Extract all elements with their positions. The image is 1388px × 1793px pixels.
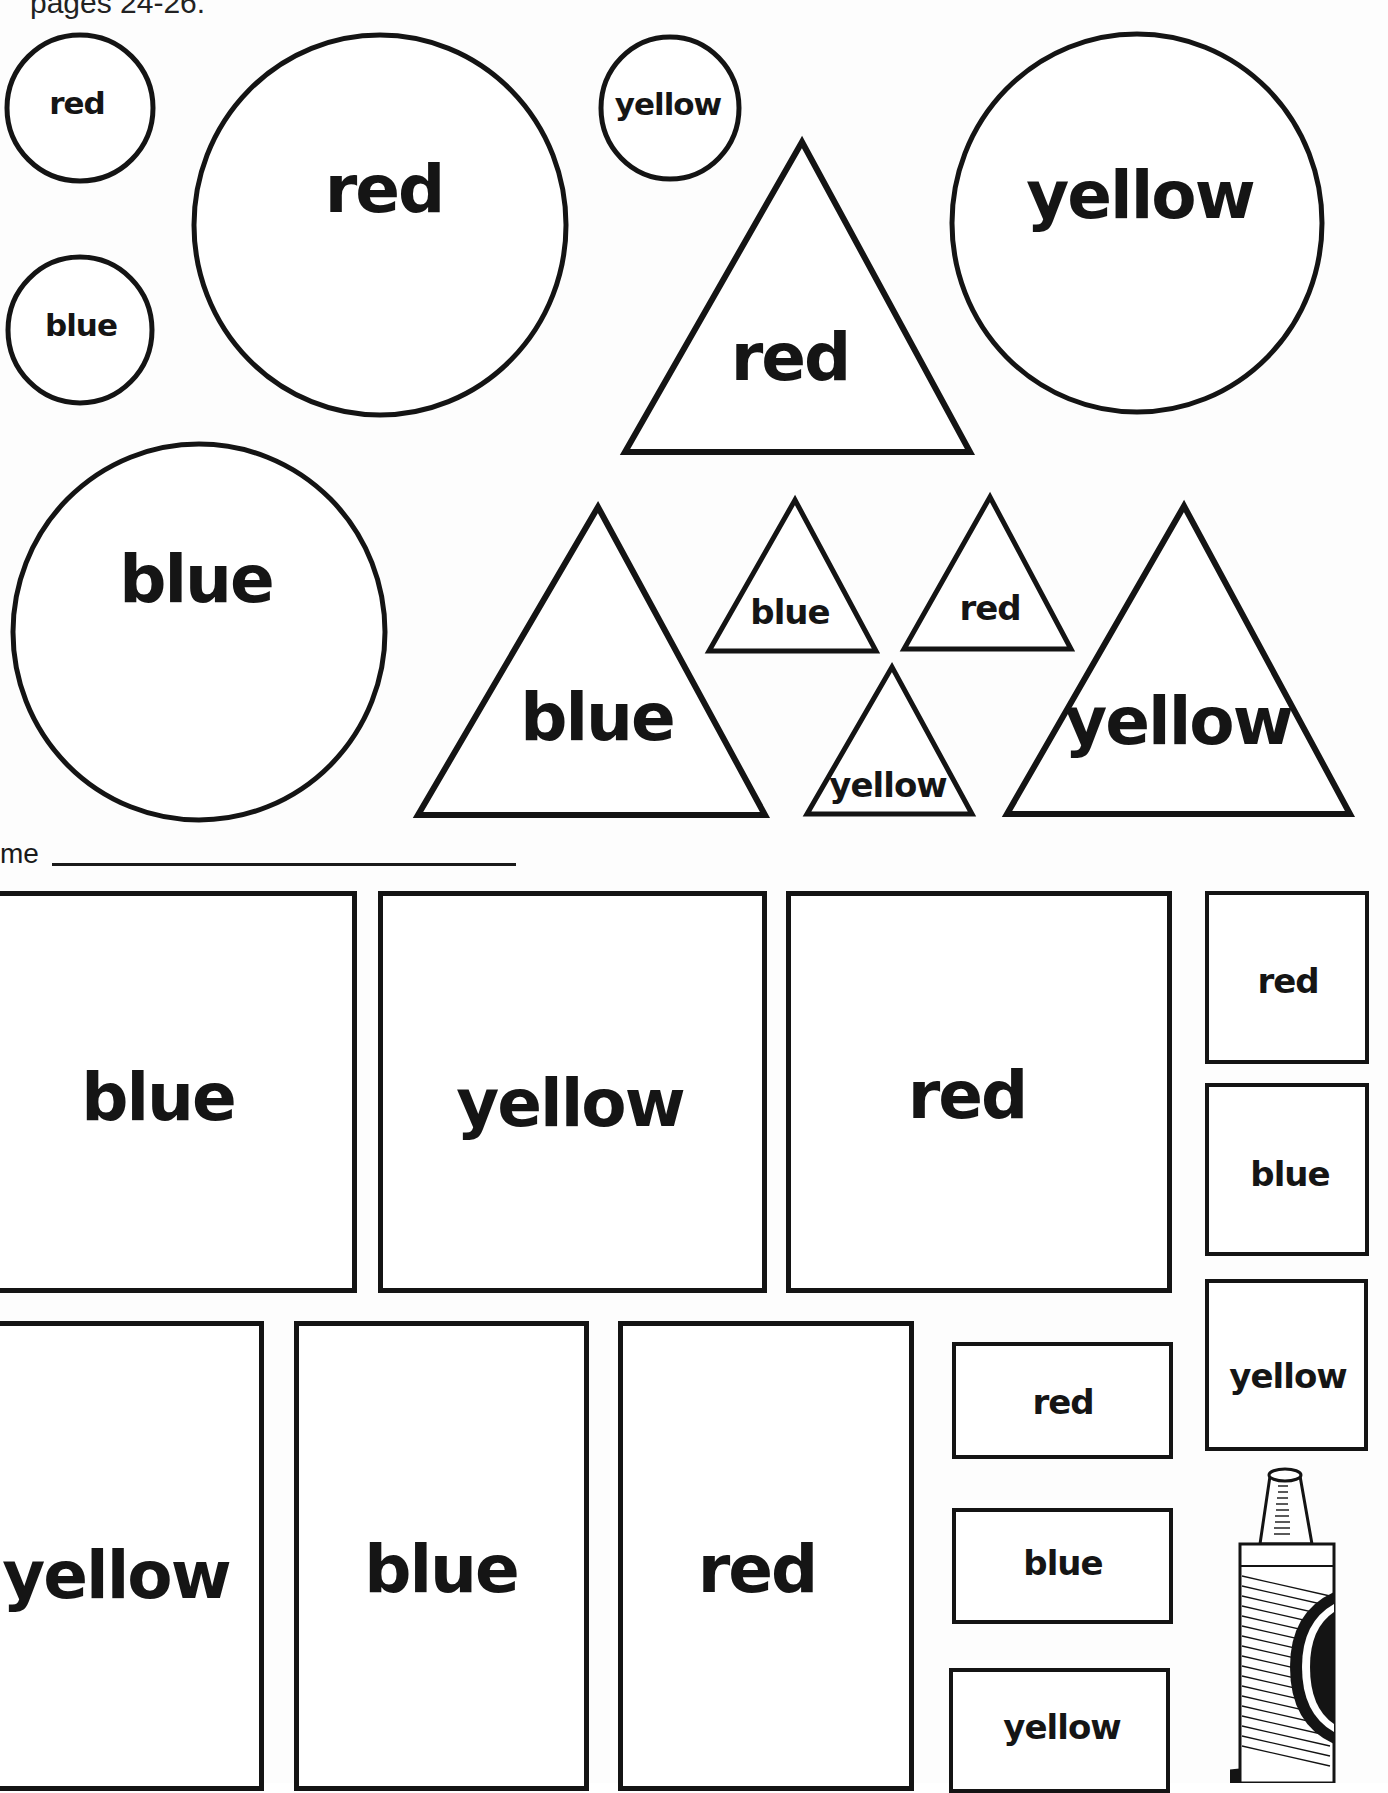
rect-wide-yellow-label: yellow [1003,1710,1120,1744]
rect-large-red-label: red [908,1063,1027,1129]
rect-wide-red-label: red [1032,1385,1093,1419]
rect-wide-blue-label: blue [1023,1546,1102,1580]
rect-tall-red-label: red [698,1537,817,1603]
rect-large-blue-label: blue [81,1065,235,1131]
rect-large-yellow-label: yellow [456,1071,683,1137]
name-field-label: me [0,838,39,870]
rect-small-yellow-label: yellow [1229,1359,1346,1393]
circle-small-blue-label: blue [45,310,117,341]
triangle-large-red-label: red [731,325,850,391]
triangle-large-blue[interactable] [418,507,765,815]
rect-small-red-label: red [1257,964,1318,998]
circle-large-blue-label: blue [119,547,273,613]
triangle-small-red-label: red [959,591,1020,625]
triangle-large-yellow-label: yellow [1064,689,1291,755]
crayon-icon [1230,1462,1350,1783]
rect-small-blue-label: blue [1250,1157,1329,1191]
circle-small-red-label: red [49,88,105,119]
triangle-large-blue-label: blue [520,685,674,751]
triangle-large-red[interactable] [625,142,970,452]
triangle-small-yellow-label: yellow [829,768,946,802]
triangle-small-blue-label: blue [750,595,829,629]
circle-large-blue[interactable] [13,444,385,820]
rect-tall-blue-label: blue [364,1537,518,1603]
circle-large-yellow-label: yellow [1026,163,1253,229]
triangle-large-yellow[interactable] [1007,506,1350,814]
name-field-input[interactable] [52,864,516,866]
circle-small-yellow-label: yellow [615,89,721,120]
rect-tall-yellow-label: yellow [2,1543,229,1609]
circle-large-red-label: red [325,157,444,223]
